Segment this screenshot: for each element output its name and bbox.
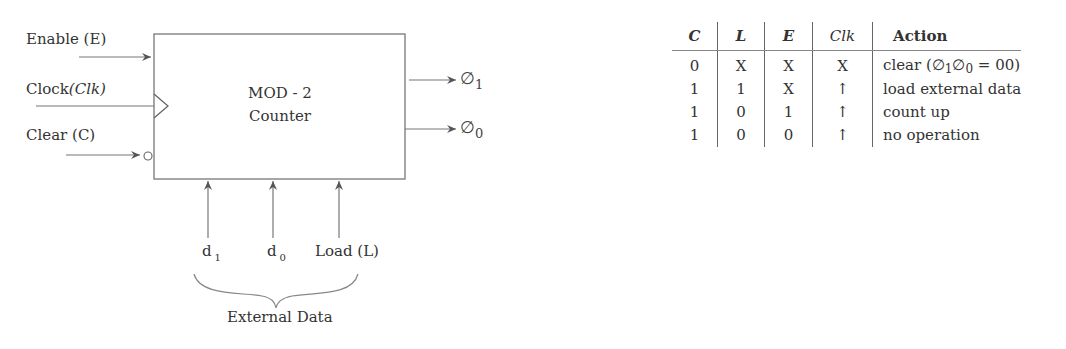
clock-triangle-icon: [154, 94, 168, 118]
cell-c: 1: [672, 78, 718, 101]
header-action: Action: [873, 22, 1022, 51]
table-row: 1 1 X ↑ load external data: [672, 78, 1021, 101]
d0-text: d: [267, 242, 277, 260]
cell-l: 0: [718, 124, 765, 147]
d0-subscript: 0: [280, 252, 286, 263]
external-data-brace: [194, 274, 358, 308]
rising-edge-icon: ↑: [813, 101, 873, 124]
cell-e: 0: [765, 124, 813, 147]
cell-c: 1: [672, 101, 718, 124]
cell-l: 1: [718, 78, 765, 101]
cell-action: load external data: [873, 78, 1022, 101]
d1-text: d: [202, 242, 212, 260]
phi-icon: ∅: [460, 68, 475, 88]
table-row: 1 0 1 ↑ count up: [672, 101, 1021, 124]
counter-title-line1: MOD - 2: [200, 82, 360, 105]
cell-c: 0: [672, 51, 718, 79]
d1-label: d1: [202, 242, 221, 260]
phi-subscript: 1: [945, 62, 953, 76]
header-l: L: [718, 22, 765, 51]
clock-label-abbr: (Clk): [69, 80, 106, 98]
output-q1-subscript: 1: [475, 77, 483, 92]
counter-title: MOD - 2 Counter: [200, 82, 360, 128]
action-text: clear (: [883, 56, 932, 74]
external-data-label: External Data: [227, 308, 333, 326]
rising-edge-icon: ↑: [813, 124, 873, 147]
truth-table: C L E Clk Action 0 X X X clear (∅1∅0 = 0…: [672, 22, 1021, 147]
inversion-bubble-icon: [144, 152, 152, 160]
header-clk: Clk: [813, 22, 873, 51]
table-row: 1 0 0 ↑ no operation: [672, 124, 1021, 147]
rising-edge-icon: ↑: [813, 78, 873, 101]
cell-e: X: [765, 51, 813, 79]
phi-icon: ∅: [952, 56, 965, 74]
phi-icon: ∅: [932, 56, 945, 74]
phi-subscript: 0: [965, 62, 973, 76]
enable-label: Enable (E): [26, 30, 106, 48]
cell-e: X: [765, 78, 813, 101]
cell-clk: X: [813, 51, 873, 79]
clock-label: Clock(Clk): [26, 80, 106, 98]
clock-label-text: Clock: [26, 80, 69, 98]
output-q0-label: ∅0: [460, 117, 483, 137]
d1-subscript: 1: [215, 252, 221, 263]
action-text: = 00): [973, 56, 1020, 74]
cell-l: 0: [718, 101, 765, 124]
counter-title-line2: Counter: [200, 105, 360, 128]
load-label: Load (L): [315, 242, 379, 260]
truth-table-header: C L E Clk Action: [672, 22, 1021, 51]
cell-c: 1: [672, 124, 718, 147]
cell-action: no operation: [873, 124, 1022, 147]
table-row: 0 X X X clear (∅1∅0 = 00): [672, 51, 1021, 79]
d0-label: d0: [267, 242, 286, 260]
cell-action: count up: [873, 101, 1022, 124]
cell-action: clear (∅1∅0 = 00): [873, 51, 1022, 79]
output-q1-label: ∅1: [460, 68, 483, 88]
clear-label: Clear (C): [26, 126, 95, 144]
cell-l: X: [718, 51, 765, 79]
cell-e: 1: [765, 101, 813, 124]
header-c: C: [672, 22, 718, 51]
header-e: E: [765, 22, 813, 51]
phi-icon: ∅: [460, 117, 475, 137]
output-q0-subscript: 0: [475, 126, 483, 141]
